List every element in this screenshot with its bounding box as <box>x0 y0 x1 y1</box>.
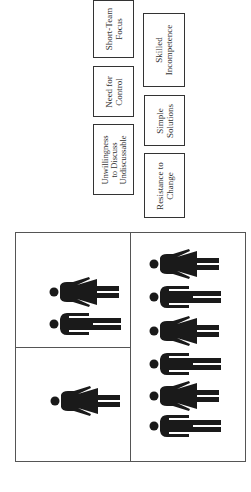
label-line: Focus <box>114 8 124 50</box>
label-resistance-to-change: Resistance to Change <box>155 162 174 210</box>
male-figure-icon <box>149 349 221 379</box>
label-line: Simple <box>155 103 165 137</box>
label-line: Control <box>114 76 124 108</box>
box-unwillingness: Unwillingness to Discuss Undiscussable <box>93 124 134 195</box>
female-figure-icon <box>149 381 221 411</box>
label-line: Undiscussable <box>118 135 127 184</box>
label-skilled-incompetence: Skilled Incompetence <box>155 25 174 75</box>
box-need-for-control: Need for Control <box>93 66 134 117</box>
male-figure-icon <box>149 411 221 441</box>
male-figure-icon <box>49 309 121 339</box>
label-line: Solutions <box>165 103 175 137</box>
female-figure-icon <box>149 316 221 346</box>
box-short-team-focus: Short-Team Focus <box>93 0 134 58</box>
people-grid <box>15 232 246 462</box>
label-simple-solutions: Simple Solutions <box>155 103 174 137</box>
label-line: Short-Team <box>104 8 114 50</box>
label-unwillingness: Unwillingness to Discuss Undiscussable <box>100 135 127 184</box>
label-line: Incompetence <box>164 25 174 75</box>
label-short-team-focus: Short-Team Focus <box>104 8 123 50</box>
male-figure-icon <box>149 282 221 312</box>
female-figure-icon <box>49 277 121 307</box>
box-skilled-incompetence: Skilled Incompetence <box>143 13 185 87</box>
box-simple-solutions: Simple Solutions <box>144 95 185 146</box>
label-line: Change <box>165 162 175 210</box>
horizontal-divider <box>16 347 131 348</box>
label-need-for-control: Need for Control <box>104 76 123 108</box>
label-line: Need for <box>104 76 114 108</box>
box-resistance-to-change: Resistance to Change <box>144 153 185 218</box>
female-figure-icon <box>149 249 221 279</box>
female-figure-icon <box>50 386 122 416</box>
label-line: Resistance to <box>155 162 165 210</box>
